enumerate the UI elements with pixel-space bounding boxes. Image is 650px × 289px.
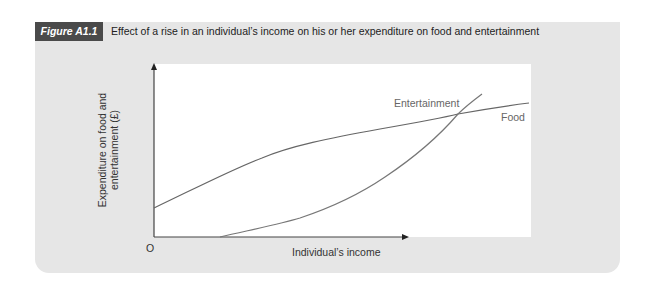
plot-area xyxy=(154,64,531,237)
origin-label: O xyxy=(146,242,154,254)
entertainment-label: Entertainment xyxy=(394,97,459,109)
x-axis-label: Individual’s income xyxy=(292,246,381,258)
food-label: Food xyxy=(501,111,525,123)
y-axis-label: Expenditure on food and entertainment (£… xyxy=(96,80,120,220)
